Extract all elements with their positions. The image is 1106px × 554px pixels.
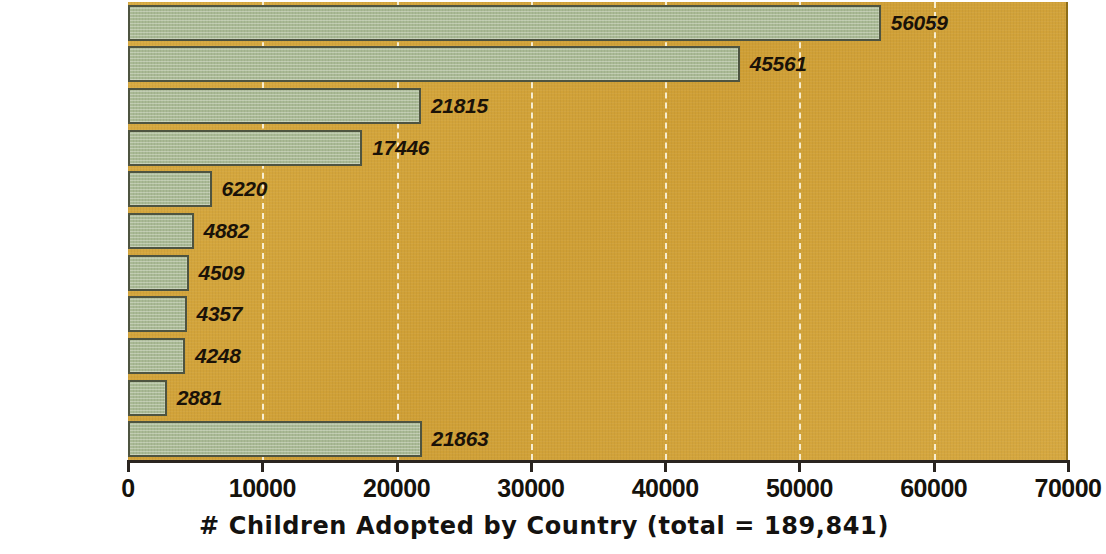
bar-value-label: 17446	[372, 136, 429, 160]
x-axis-tick-label: 70000	[948, 474, 1106, 503]
bar[interactable]	[128, 255, 189, 291]
bar-row: 6220	[128, 171, 1068, 207]
bar-row: 17446	[128, 130, 1068, 166]
x-axis-tick	[127, 460, 130, 472]
bar-value-label: 4248	[195, 344, 241, 368]
bar-row: 21863	[128, 421, 1068, 457]
bar[interactable]	[128, 213, 194, 249]
bar-row: 4357	[128, 296, 1068, 332]
x-axis-line	[128, 460, 1070, 463]
bar[interactable]	[128, 88, 421, 124]
bar-value-label: 56059	[891, 11, 948, 35]
bar[interactable]	[128, 5, 881, 41]
bar[interactable]	[128, 130, 362, 166]
bar[interactable]	[128, 338, 185, 374]
bar-row: 2881	[128, 380, 1068, 416]
bar-value-label: 4357	[197, 302, 243, 326]
bar-value-label: 2881	[177, 386, 223, 410]
x-axis-tick	[530, 460, 533, 472]
bar-row: 4882	[128, 213, 1068, 249]
bar-value-label: 4882	[204, 219, 250, 243]
bar-row: 45561	[128, 46, 1068, 82]
x-axis-tick	[664, 460, 667, 472]
bar-row: 56059	[128, 5, 1068, 41]
bar[interactable]	[128, 296, 187, 332]
x-axis-tick	[798, 460, 801, 472]
x-axis-tick	[1067, 460, 1070, 472]
bar[interactable]	[128, 421, 422, 457]
bar-value-label: 21863	[432, 427, 489, 451]
bar-row: 21815	[128, 88, 1068, 124]
bar-value-label: 6220	[222, 177, 268, 201]
bar-value-label: 45561	[750, 52, 807, 76]
bar-row: 4248	[128, 338, 1068, 374]
bar-value-label: 4509	[199, 261, 245, 285]
plot-area: 5605945561218151744662204882450943574248…	[128, 2, 1068, 460]
bar-value-label: 21815	[431, 94, 488, 118]
x-axis-tick	[396, 460, 399, 472]
bar[interactable]	[128, 380, 167, 416]
x-axis-title: # Children Adopted by Country (total = 1…	[0, 512, 1088, 540]
bar[interactable]	[128, 171, 212, 207]
x-axis-tick	[261, 460, 264, 472]
x-axis-tick	[933, 460, 936, 472]
bar[interactable]	[128, 46, 740, 82]
bar-row: 4509	[128, 255, 1068, 291]
